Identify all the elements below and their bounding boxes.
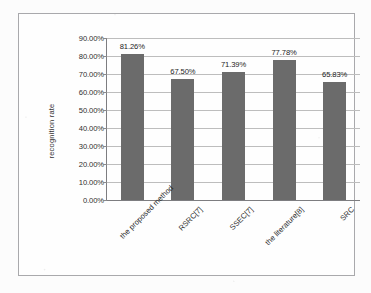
y-axis-tick-label: 50.00% [79,106,104,115]
bar-value-label: 65.83% [322,70,347,79]
figure: recognition rate 0.00%10.00%20.00%30.00%… [0,0,371,293]
bar-value-label: 81.26% [120,42,145,51]
x-axis-tick-labels: the proposed methodRSRC[7]SSEC[7]the lit… [106,201,359,289]
y-axis-tick-label: 80.00% [79,52,104,61]
bar-value-label: 71.39% [221,60,246,69]
y-axis-title-text: recognition rate [47,76,56,186]
bar-category: 67.50% [158,38,209,200]
y-axis-tick-label: 10.00% [79,178,104,187]
y-axis-title: recognition rate [47,0,61,76]
bar[interactable]: 67.50% [171,79,194,201]
bar[interactable]: 71.39% [222,72,245,201]
bar-category: 77.78% [259,38,310,200]
bar[interactable]: 65.83% [323,82,346,200]
x-axis-tick-label: the proposed method [118,205,154,241]
y-axis-tick-label: 30.00% [79,142,104,151]
bar-value-label: 77.78% [272,48,297,57]
bar-category: 65.83% [309,38,360,200]
y-axis-tick-label: 20.00% [79,160,104,169]
bar[interactable]: 81.26% [121,54,144,200]
plot-area: 81.26%67.50%71.39%77.78%65.83% [106,38,360,201]
bar-value-label: 67.50% [170,67,195,76]
y-axis-tick-labels: 0.00%10.00%20.00%30.00%40.00%50.00%60.00… [63,32,107,206]
y-axis-tick-label: 0.00% [83,196,104,205]
bar-series: 81.26%67.50%71.39%77.78%65.83% [107,38,360,200]
y-axis-tick-label: 90.00% [79,34,104,43]
y-axis-tick-label: 70.00% [79,70,104,79]
bar-category: 81.26% [107,38,158,200]
chart-frame: recognition rate 0.00%10.00%20.00%30.00%… [18,13,355,276]
bar[interactable]: 77.78% [273,60,296,200]
bar-category: 71.39% [208,38,259,200]
y-axis-tick-label: 60.00% [79,88,104,97]
y-axis-tick-label: 40.00% [79,124,104,133]
